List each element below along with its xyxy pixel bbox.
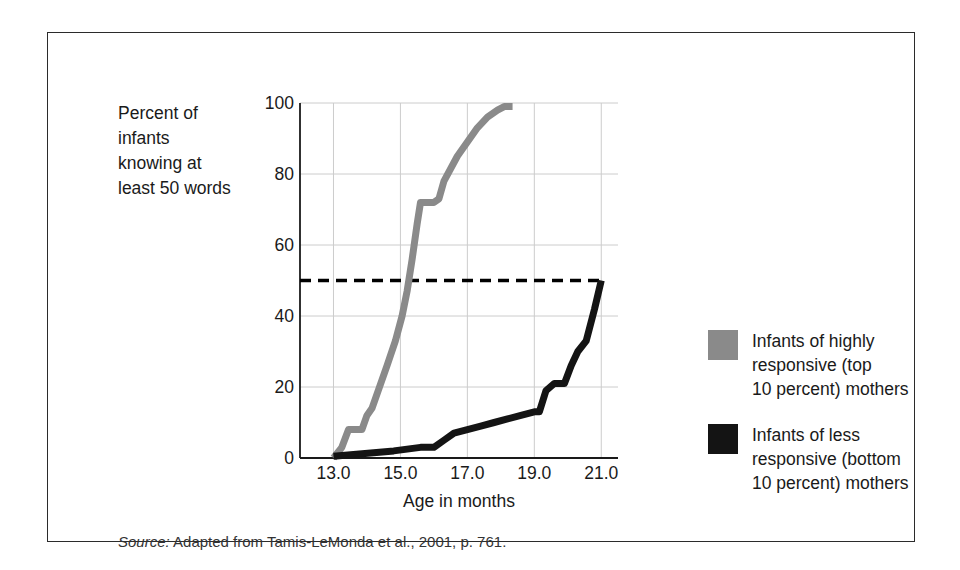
plot-area — [300, 103, 618, 458]
y-axis-tick-labels: 020406080100 — [242, 103, 294, 458]
legend-entry-less-responsive: Infants of less responsive (bottom 10 pe… — [708, 423, 909, 495]
y-tick-label: 80 — [248, 164, 294, 185]
x-tick-label: 19.0 — [517, 463, 551, 484]
source-note: Source: Adapted from Tamis-LeMonda et al… — [118, 533, 506, 550]
figure-root: Percent of infants knowing at least 50 w… — [0, 0, 960, 570]
source-label: Source: — [118, 533, 170, 550]
y-tick-label: 100 — [248, 93, 294, 114]
x-tick-label: 21.0 — [584, 463, 618, 484]
legend-swatch-less-responsive — [708, 424, 738, 454]
y-tick-label: 20 — [248, 377, 294, 398]
y-tick-label: 0 — [248, 448, 294, 469]
x-axis-title: Age in months — [300, 491, 618, 512]
series-line-0 — [333, 107, 512, 458]
x-tick-label: 13.0 — [316, 463, 350, 484]
source-citation: Adapted from Tamis-LeMonda et al., 2001,… — [170, 533, 507, 550]
x-tick-label: 15.0 — [383, 463, 417, 484]
y-tick-label: 60 — [248, 235, 294, 256]
chart-canvas — [300, 103, 618, 458]
x-axis-tick-labels: 13.015.017.019.021.0 — [300, 463, 618, 489]
x-tick-label: 17.0 — [450, 463, 484, 484]
chart-legend: Infants of highly responsive (top 10 per… — [708, 329, 909, 517]
legend-label-highly-responsive: Infants of highly responsive (top 10 per… — [752, 329, 909, 401]
legend-swatch-highly-responsive — [708, 330, 738, 360]
legend-label-less-responsive: Infants of less responsive (bottom 10 pe… — [752, 423, 909, 495]
figure-frame: Percent of infants knowing at least 50 w… — [47, 32, 915, 542]
legend-entry-highly-responsive: Infants of highly responsive (top 10 per… — [708, 329, 909, 401]
y-tick-label: 40 — [248, 306, 294, 327]
